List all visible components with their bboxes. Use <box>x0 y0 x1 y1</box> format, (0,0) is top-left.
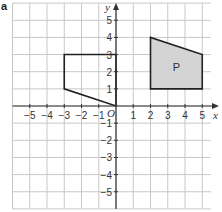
x-tick-label: 3 <box>165 110 171 121</box>
y-tick-label: −2 <box>101 135 113 146</box>
origin-label: O <box>107 107 115 119</box>
y-axis-label: y <box>104 1 110 13</box>
x-tick-label: −3 <box>59 110 71 121</box>
x-tick-label: −5 <box>24 110 36 121</box>
y-tick-label: −4 <box>101 170 113 181</box>
shape-label: P <box>173 61 180 73</box>
y-tick-label: 5 <box>106 15 112 26</box>
y-tick-label: 4 <box>106 32 112 43</box>
x-tick-label: −2 <box>76 110 88 121</box>
x-axis-label: x <box>212 109 218 121</box>
y-axis-arrow-icon <box>113 3 119 10</box>
x-tick-label: 1 <box>130 110 136 121</box>
x-tick-label: −4 <box>41 110 53 121</box>
shape-unlabelled-shape <box>64 55 116 106</box>
coordinate-grid: P−5−4−3−2−11234554321−1−2−3−4−5Oxy <box>0 0 222 212</box>
y-tick-label: −1 <box>101 118 113 129</box>
y-tick-label: 3 <box>106 50 112 61</box>
y-tick-label: 2 <box>106 67 112 78</box>
x-tick-label: 5 <box>199 110 205 121</box>
x-tick-label: 4 <box>182 110 188 121</box>
y-tick-label: −5 <box>101 187 113 198</box>
x-tick-label: 2 <box>148 110 154 121</box>
y-tick-label: −3 <box>101 152 113 163</box>
y-tick-label: 1 <box>106 84 112 95</box>
